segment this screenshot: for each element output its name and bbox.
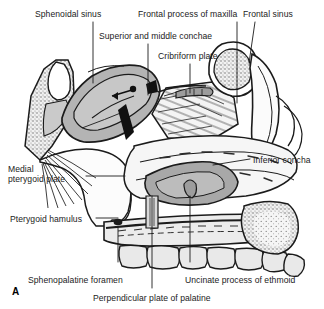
label-frontal-process-of-maxilla: Frontal process of maxilla [138, 9, 237, 19]
tooth [284, 254, 305, 276]
label-sphenoidal-sinus: Sphenoidal sinus [35, 9, 101, 19]
label-frontal-sinus: Frontal sinus [243, 9, 293, 19]
tooth [119, 245, 148, 268]
label-cribriform-plate: Cribriform plate [158, 51, 218, 61]
label-sphenopalatine-foramen: Sphenopalatine foramen [28, 275, 123, 285]
tooth [235, 248, 264, 270]
label-inferior-concha: Inferior concha [253, 155, 311, 165]
sphenopalatine-foramen [114, 219, 123, 225]
label-pterygoid-hamulus: Pterygoid hamulus [10, 214, 82, 224]
label-superior-and-middle-conchae: Superior and middle conchae [99, 31, 212, 41]
label-uncinate-process-of-ethmoid: Uncinate process of ethmoid [185, 275, 295, 285]
tooth [207, 247, 236, 269]
tooth [179, 247, 208, 270]
label-perpendicular-plate-of-palatine: Perpendicular plate of palatine [93, 293, 211, 303]
maxillary-tuberosity [241, 201, 298, 254]
superior-and-middle-conchae [62, 65, 160, 142]
anatomy-figure-panel-a: Sphenoidal sinusFrontal process of maxil… [0, 0, 324, 309]
panel-letter: A [12, 286, 19, 297]
label-medial-pterygoid-plate: Medialpterygoid plate [8, 164, 84, 184]
